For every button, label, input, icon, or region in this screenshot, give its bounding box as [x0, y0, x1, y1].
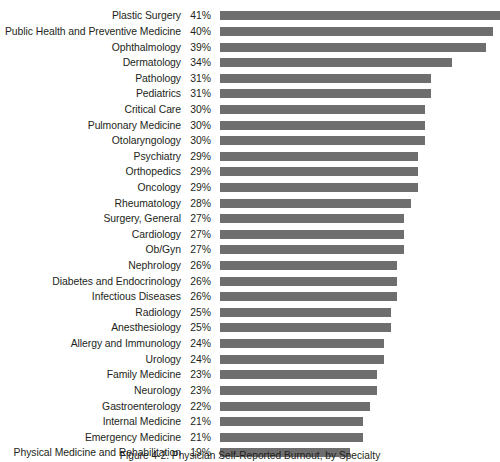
bar-track — [220, 117, 500, 133]
bar — [220, 308, 391, 317]
category-label: Diabetes and Endocrinology — [0, 276, 181, 287]
bar — [220, 58, 452, 67]
value-label: 21% — [181, 432, 215, 443]
bar — [220, 261, 397, 270]
category-label: Pediatrics — [0, 88, 181, 99]
bar — [220, 136, 425, 145]
bar-track — [220, 148, 500, 164]
bar-track — [220, 8, 500, 24]
category-label: Pulmonary Medicine — [0, 120, 181, 131]
bar — [220, 292, 397, 301]
bar-track — [220, 429, 500, 445]
bar-track — [220, 195, 500, 211]
bar — [220, 105, 425, 114]
category-label: Pathology — [0, 73, 181, 84]
value-label: 30% — [181, 120, 215, 131]
bar — [220, 339, 384, 348]
bar-track — [220, 133, 500, 149]
bar-track — [220, 70, 500, 86]
bar — [220, 74, 431, 83]
value-label: 27% — [181, 244, 215, 255]
figure-caption: Figure 4-2. Physician Self-Reported Burn… — [0, 450, 500, 462]
chart-row: Ophthalmology39% — [0, 39, 500, 55]
bar-track — [220, 55, 500, 71]
value-label: 29% — [181, 151, 215, 162]
chart-row: Oncology29% — [0, 180, 500, 196]
bar-track — [220, 305, 500, 321]
bar — [220, 43, 486, 52]
chart-row: Anesthesiology25% — [0, 320, 500, 336]
bar-track — [220, 336, 500, 352]
value-label: 26% — [181, 291, 215, 302]
bar-track — [220, 258, 500, 274]
bar — [220, 277, 397, 286]
value-label: 26% — [181, 260, 215, 271]
bar — [220, 152, 418, 161]
category-label: Infectious Diseases — [0, 291, 181, 302]
bar-track — [220, 39, 500, 55]
value-label: 31% — [181, 88, 215, 99]
chart-row: Infectious Diseases26% — [0, 289, 500, 305]
bar — [220, 121, 425, 130]
chart-row: Urology24% — [0, 351, 500, 367]
chart-row: Nephrology26% — [0, 258, 500, 274]
bar — [220, 11, 500, 20]
bar-chart: Plastic Surgery41%Public Health and Prev… — [0, 8, 500, 461]
category-label: Allergy and Immunology — [0, 338, 181, 349]
category-label: Emergency Medicine — [0, 432, 181, 443]
chart-row: Psychiatry29% — [0, 148, 500, 164]
bar-track — [220, 289, 500, 305]
value-label: 24% — [181, 354, 215, 365]
chart-row: Dermatology34% — [0, 55, 500, 71]
bar-track — [220, 351, 500, 367]
chart-row: Gastroenterology22% — [0, 398, 500, 414]
bar — [220, 89, 431, 98]
chart-row: Family Medicine23% — [0, 367, 500, 383]
chart-row: Rheumatology28% — [0, 195, 500, 211]
category-label: Urology — [0, 354, 181, 365]
chart-row: Radiology25% — [0, 305, 500, 321]
chart-row: Surgery, General27% — [0, 211, 500, 227]
value-label: 26% — [181, 276, 215, 287]
value-label: 40% — [181, 26, 215, 37]
value-label: 22% — [181, 401, 215, 412]
chart-row: Diabetes and Endocrinology26% — [0, 273, 500, 289]
category-label: Family Medicine — [0, 369, 181, 380]
bar-track — [220, 86, 500, 102]
bar-track — [220, 24, 500, 40]
bar-track — [220, 227, 500, 243]
bar — [220, 230, 404, 239]
value-label: 23% — [181, 385, 215, 396]
bar-track — [220, 367, 500, 383]
category-label: Critical Care — [0, 104, 181, 115]
chart-row: Critical Care30% — [0, 102, 500, 118]
category-label: Ophthalmology — [0, 42, 181, 53]
value-label: 30% — [181, 104, 215, 115]
chart-row: Pathology31% — [0, 70, 500, 86]
chart-row: Pulmonary Medicine30% — [0, 117, 500, 133]
bar — [220, 27, 493, 36]
category-label: Psychiatry — [0, 151, 181, 162]
category-label: Oncology — [0, 182, 181, 193]
chart-row: Pediatrics31% — [0, 86, 500, 102]
bar-track — [220, 102, 500, 118]
chart-row: Internal Medicine21% — [0, 414, 500, 430]
value-label: 27% — [181, 213, 215, 224]
bar-track — [220, 383, 500, 399]
bar — [220, 433, 363, 442]
value-label: 30% — [181, 135, 215, 146]
category-label: Rheumatology — [0, 198, 181, 209]
bar-track — [220, 273, 500, 289]
bar — [220, 417, 363, 426]
category-label: Dermatology — [0, 57, 181, 68]
bar-track — [220, 414, 500, 430]
value-label: 27% — [181, 229, 215, 240]
bar — [220, 245, 404, 254]
chart-row: Ob/Gyn27% — [0, 242, 500, 258]
value-label: 41% — [181, 10, 215, 21]
category-label: Internal Medicine — [0, 416, 181, 427]
chart-row: Allergy and Immunology24% — [0, 336, 500, 352]
category-label: Anesthesiology — [0, 322, 181, 333]
category-label: Plastic Surgery — [0, 10, 181, 21]
